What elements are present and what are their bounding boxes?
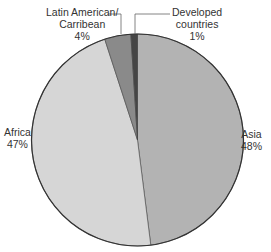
leader-line-developed — [135, 14, 170, 34]
label-developed-name-2: countries — [172, 18, 222, 30]
label-latin-name-2: Carribean — [46, 18, 118, 30]
label-asia-name: Asia — [241, 128, 262, 140]
label-latin-value: 4% — [46, 30, 118, 42]
label-developed-name-1: Developed — [172, 6, 222, 18]
label-developed: Developed countries 1% — [172, 6, 222, 42]
label-africa: Africa 47% — [4, 126, 31, 150]
pie-chart — [0, 0, 271, 252]
label-asia: Asia 48% — [241, 128, 262, 152]
label-africa-value: 47% — [4, 138, 31, 150]
label-developed-value: 1% — [172, 30, 222, 42]
slice-asia — [138, 34, 244, 245]
label-latin-name-1: Latin American/ — [46, 6, 118, 18]
label-africa-name: Africa — [4, 126, 31, 138]
label-asia-value: 48% — [241, 140, 262, 152]
label-latin-american: Latin American/ Carribean 4% — [46, 6, 118, 42]
